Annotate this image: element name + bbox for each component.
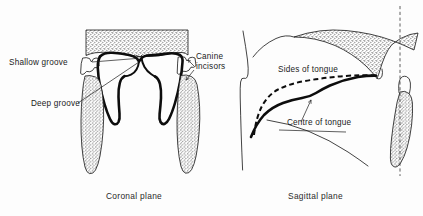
label-centre-of-tongue: Centre of tongue: [287, 118, 351, 127]
caption-sagittal-plane: Sagittal plane: [288, 191, 343, 201]
molar-root-sagittal: [390, 91, 412, 167]
leader-centre-of-tongue-baseline: [279, 130, 346, 132]
label-sides-of-tongue: Sides of tongue: [278, 65, 338, 74]
caption-coronal-plane: Coronal plane: [106, 191, 162, 201]
tooth-root-right-coronal: [177, 75, 200, 173]
leader-canine-upper: [188, 60, 194, 66]
tooth-root-left-coronal: [81, 75, 104, 173]
centre-of-tongue-curve: [251, 76, 376, 137]
canine-crown-left-coronal: [81, 58, 100, 75]
molar-crown-sagittal: [399, 76, 411, 93]
anatomical-figure: Shallow groove Deep groove Canine inciso…: [0, 0, 423, 216]
palate-upper-contour-sagittal: [253, 36, 294, 57]
lip-profile-sagittal: [240, 31, 248, 170]
deep-groove-right-coronal: [142, 58, 156, 76]
tongue-outline-coronal: [100, 53, 183, 124]
label-shallow-groove: Shallow groove: [9, 58, 68, 67]
coronal-panel: Shallow groove Deep groove Canine inciso…: [9, 30, 225, 201]
figure-canvas: Shallow groove Deep groove Canine inciso…: [0, 0, 423, 216]
label-deep-groove: Deep groove: [31, 99, 80, 108]
label-canine-incisors-line1: Canine: [196, 52, 223, 61]
sagittal-panel: Sides of tongue Centre of tongue Sagitta…: [240, 6, 418, 201]
label-canine-incisors-line2: incisors: [196, 62, 225, 71]
